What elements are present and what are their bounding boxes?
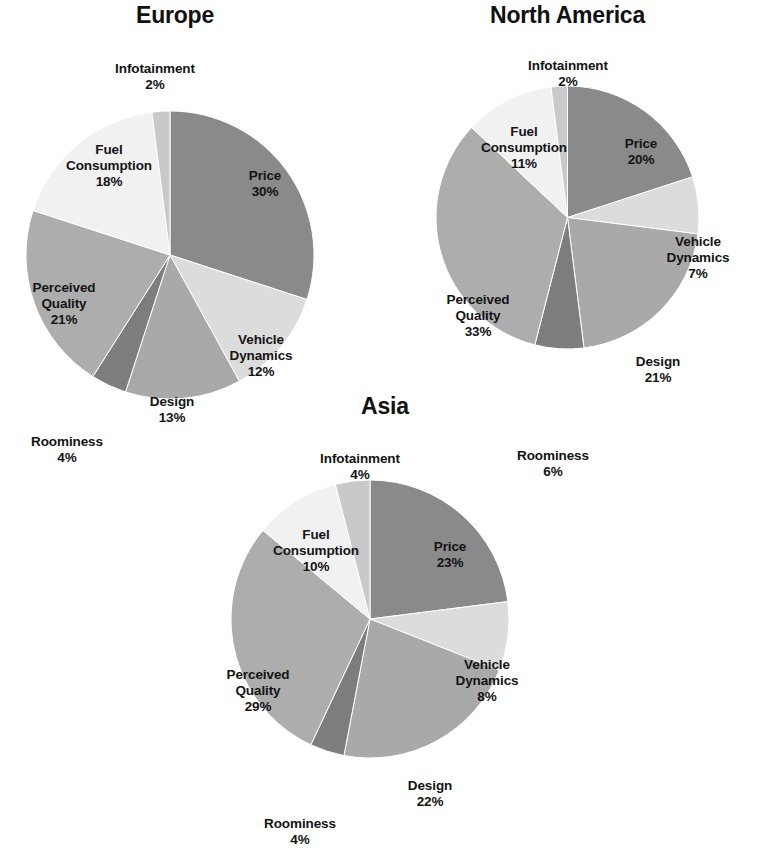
slice-label-na-perceived-quality: Perceived Quality 33%	[420, 276, 536, 356]
slice-label-name: Fuel Consumption	[481, 124, 567, 155]
slice-label-pct: 30%	[215, 184, 315, 200]
slice-label-pct: 33%	[420, 324, 536, 340]
slice-label-name: Design	[408, 778, 452, 793]
slice-label-pct: 4%	[235, 832, 365, 848]
slice-label-europe-fuel-consumption: Fuel Consumption 18%	[45, 126, 173, 206]
chart-title-asia: Asia	[190, 393, 580, 420]
slice-label-europe-price: Price 30%	[215, 152, 315, 216]
slice-label-na-fuel-consumption: Fuel Consumption 11%	[460, 108, 588, 188]
slice-label-pct: 21%	[6, 312, 122, 328]
slice-label-pct: 12%	[206, 364, 316, 380]
slice-label-asia-perceived-quality: Perceived Quality 29%	[200, 651, 316, 731]
slice-label-name: Perceived Quality	[447, 292, 510, 323]
slice-label-name: Infotainment	[528, 58, 608, 73]
slice-label-europe-perceived-quality: Perceived Quality 21%	[6, 264, 122, 344]
slice-label-name: Vehicle Dynamics	[230, 332, 293, 363]
slice-label-asia-design: Design 22%	[382, 762, 478, 826]
slice-label-name: Infotainment	[115, 61, 195, 76]
slice-label-europe-infotainment: Infotainment 2%	[75, 45, 235, 109]
slice-label-pct: 8%	[432, 689, 542, 705]
slice-label-name: Price	[434, 539, 467, 554]
slice-label-name: Fuel Consumption	[66, 142, 152, 173]
slice-label-name: Price	[625, 136, 658, 151]
slice-label-pct: 2%	[75, 77, 235, 93]
slice-label-pct: 4%	[280, 467, 440, 483]
slice-label-name: Design	[150, 394, 194, 409]
slice-label-name: Infotainment	[320, 451, 400, 466]
slice-label-name: Vehicle Dynamics	[456, 657, 519, 688]
chart-title-europe: Europe	[0, 2, 350, 29]
slice-label-name: Vehicle Dynamics	[667, 234, 730, 265]
slice-label-pct: 7%	[643, 266, 753, 282]
slice-label-name: Perceived Quality	[227, 667, 290, 698]
slice-label-europe-roominess: Roominess 4%	[2, 418, 132, 482]
chart-panel-asia: Asia Infotainment 4% Price 23% Vehicle D…	[200, 393, 590, 863]
slice-label-asia-price: Price 23%	[405, 523, 495, 587]
slice-label-na-vehicle-dynamics: Vehicle Dynamics 7%	[643, 218, 753, 298]
slice-label-pct: 23%	[405, 555, 495, 571]
slice-label-pct: 11%	[460, 156, 588, 172]
slice-label-pct: 4%	[2, 450, 132, 466]
slice-label-pct: 20%	[596, 152, 686, 168]
slice-label-pct: 18%	[45, 174, 173, 190]
slice-label-asia-fuel-consumption: Fuel Consumption 10%	[252, 511, 380, 591]
slice-label-name: Perceived Quality	[33, 280, 96, 311]
slice-label-asia-vehicle-dynamics: Vehicle Dynamics 8%	[432, 641, 542, 721]
chart-title-north-america: North America	[385, 2, 750, 29]
slice-label-na-infotainment: Infotainment 2%	[488, 42, 648, 106]
slice-label-name: Roominess	[264, 816, 336, 831]
slice-label-na-price: Price 20%	[596, 120, 686, 184]
slice-label-name: Roominess	[31, 434, 103, 449]
slice-label-europe-vehicle-dynamics: Vehicle Dynamics 12%	[206, 316, 316, 396]
slice-label-name: Fuel Consumption	[273, 527, 359, 558]
slice-label-name: Design	[636, 354, 680, 369]
slice-label-asia-roominess: Roominess 4%	[235, 800, 365, 863]
chart-panel-europe: Europe Infotainment 2% Price 30% Vehicle…	[0, 0, 350, 440]
slice-label-pct: 29%	[200, 699, 316, 715]
slice-label-pct: 10%	[252, 559, 380, 575]
slice-label-pct: 2%	[488, 74, 648, 90]
slice-label-na-design: Design 21%	[610, 338, 706, 402]
slice-label-name: Price	[249, 168, 282, 183]
slice-label-pct: 22%	[382, 794, 478, 810]
slice-label-asia-infotainment: Infotainment 4%	[280, 435, 440, 499]
slice-label-pct: 21%	[610, 370, 706, 386]
